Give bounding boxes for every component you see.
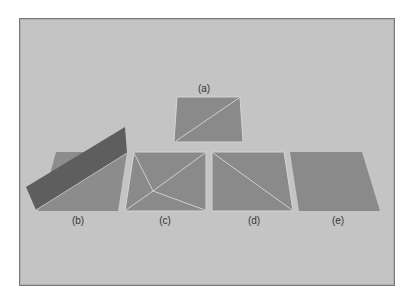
panel-d [212,152,293,211]
panels-diagram [0,0,410,305]
label-c: (c) [159,215,171,226]
panel-b [26,127,127,211]
panel-a [174,97,243,142]
label-d: (d) [248,215,260,226]
label-e: (e) [332,215,344,226]
label-b: (b) [72,215,84,226]
label-a: (a) [198,83,210,94]
panel-e [290,152,380,211]
panel-c [125,152,206,211]
